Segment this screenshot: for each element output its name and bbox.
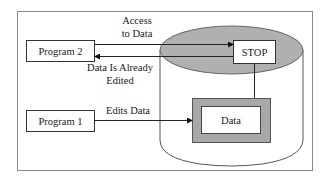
access-label-line2: to Data [122, 28, 153, 39]
already-edited-label-line1: Data Is Already [87, 62, 154, 73]
program-2-label: Program 2 [38, 46, 82, 57]
already-edited-label-line2: Edited [106, 75, 134, 86]
diagram-canvas: Program 2 Program 1 STOP Data Access to … [0, 0, 326, 177]
access-label-line1: Access [122, 15, 152, 26]
cylinder-top [160, 26, 303, 74]
program-1-node: Program 1 [27, 111, 95, 132]
program-1-label: Program 1 [38, 116, 82, 127]
stop-label: STOP [242, 47, 268, 58]
database-cylinder [160, 26, 303, 166]
data-node: Data [193, 99, 271, 143]
program-2-node: Program 2 [27, 41, 95, 62]
data-label: Data [221, 115, 241, 126]
stop-node: STOP [234, 41, 276, 64]
edits-data-label: Edits Data [106, 105, 150, 116]
